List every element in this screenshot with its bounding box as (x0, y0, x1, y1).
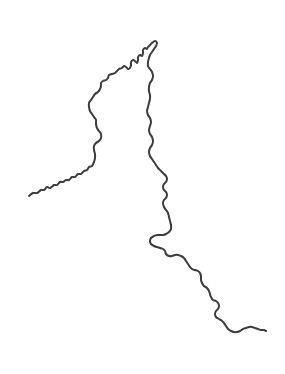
map-figure (0, 0, 285, 374)
map-canvas (0, 0, 285, 374)
